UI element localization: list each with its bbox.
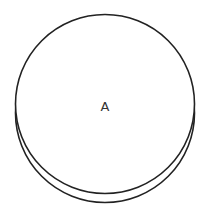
diagram-canvas: A xyxy=(0,0,209,216)
circle-label-a: A xyxy=(101,99,110,114)
